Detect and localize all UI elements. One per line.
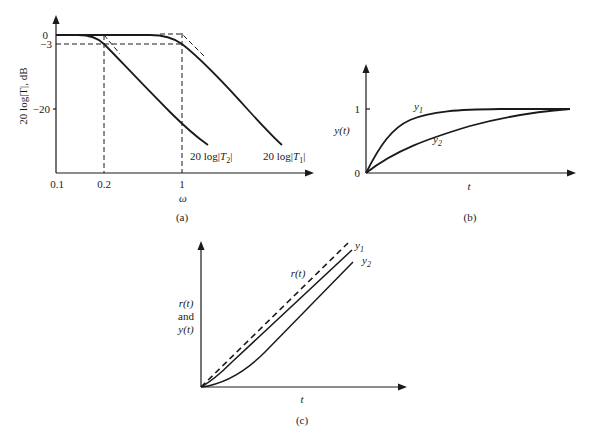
panel-a-ylabel: 20 log|T|, dB bbox=[17, 67, 29, 124]
panel-c-caption: (c) bbox=[296, 414, 309, 427]
panel-c-ramp-response: r(t) and y(t) r(t) y1 y2 t (c) bbox=[177, 239, 407, 427]
panel-c-xlabel: t bbox=[300, 393, 304, 405]
panel-a-ytick-minus20-label: −20 bbox=[33, 103, 51, 115]
panel-a-xtick-0.2-label: 0.2 bbox=[97, 178, 111, 190]
panel-b-caption: (b) bbox=[464, 211, 477, 224]
panel-b-x-axis-arrow-icon bbox=[567, 170, 576, 177]
panel-b-y1-label: y1 bbox=[413, 100, 423, 115]
panel-b-ytick-0-label: 0 bbox=[355, 167, 361, 179]
panel-c-r-label: r(t) bbox=[291, 267, 306, 280]
panel-a-bode-magnitude: 20 log|T|, dB 0 −3 −20 0.1 0.2 1 ω 20 lo… bbox=[17, 15, 314, 224]
panel-a-xtick-1-label: 1 bbox=[179, 178, 185, 190]
panel-a-y-axis-arrow-icon bbox=[53, 15, 60, 24]
panel-c-y1-curve bbox=[201, 250, 352, 387]
panel-a-t1-curve bbox=[56, 35, 282, 145]
panel-a-x-axis-arrow-icon bbox=[305, 170, 314, 177]
panel-c-ylabel-line1: r(t) bbox=[179, 297, 194, 310]
panel-b-y-axis-arrow-icon bbox=[363, 64, 370, 73]
panel-c-ylabel-line3: y(t) bbox=[177, 323, 194, 336]
panel-b-y2-curve bbox=[366, 109, 570, 173]
panel-c-x-axis-arrow-icon bbox=[398, 384, 407, 391]
panel-b-y1-curve bbox=[366, 109, 570, 173]
panel-b-ylabel: y(t) bbox=[333, 124, 350, 137]
figure: 20 log|T|, dB 0 −3 −20 0.1 0.2 1 ω 20 lo… bbox=[0, 0, 590, 440]
panel-a-t2-curve bbox=[56, 35, 208, 145]
panel-c-y-axis-arrow-icon bbox=[198, 241, 205, 250]
panel-b-ytick-1-label: 1 bbox=[355, 103, 361, 115]
panel-c-y2-label: y2 bbox=[361, 254, 371, 269]
panel-a-t1-label: 20 log|T1| bbox=[263, 150, 305, 165]
panel-a-ytick-minus3-label: −3 bbox=[40, 38, 52, 50]
panel-c-y1-label: y1 bbox=[354, 239, 364, 254]
panel-c-ylabel-line2: and bbox=[178, 310, 194, 322]
panel-c-y2-curve bbox=[201, 262, 353, 387]
panel-a-xtick-0.1-label: 0.1 bbox=[50, 178, 64, 190]
panel-b-step-response: y(t) 1 0 t y1 y2 (b) bbox=[333, 64, 576, 224]
panel-b-xlabel: t bbox=[467, 180, 471, 192]
panel-a-caption: (a) bbox=[176, 211, 189, 224]
panel-a-xlabel: ω bbox=[179, 192, 187, 204]
panel-c-r-ramp bbox=[201, 243, 348, 387]
panel-a-t2-label: 20 log|T2| bbox=[190, 150, 232, 165]
